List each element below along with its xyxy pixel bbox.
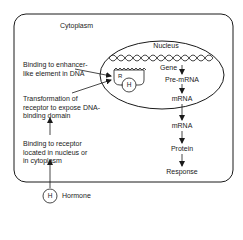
- step-text: like element in DNA: [23, 70, 88, 79]
- hormone-bound-label: H: [127, 81, 132, 90]
- step-text: receptor to expose DNA-: [23, 104, 100, 113]
- flow-premrna: Pre-mRNA: [165, 76, 199, 85]
- step-text: Transformation of: [23, 95, 100, 104]
- step-text: Binding to receptor: [23, 140, 87, 149]
- step-text: in cytoplasm: [23, 157, 87, 166]
- nucleus-label: Nucleus: [153, 42, 178, 51]
- step-text: binding domain: [23, 112, 100, 121]
- arrow-to-receptor: [72, 80, 111, 93]
- step-receptor-transformation: Transformation of receptor to expose DNA…: [23, 95, 100, 121]
- step-text: Binding to enhancer-: [23, 61, 88, 70]
- hormone-label: Hormone: [62, 192, 91, 201]
- hormone-symbol: H: [48, 192, 53, 201]
- flow-mrna-nuclear: mRNA: [172, 95, 193, 104]
- step-text: located in nucleus or: [23, 149, 87, 158]
- dna-helix-icon: [109, 55, 213, 61]
- gene-label: Gene: [160, 64, 177, 73]
- flow-response: Response: [166, 168, 198, 177]
- flow-mrna-cytoplasmic: mRNA: [172, 122, 193, 131]
- step-receptor-binding: Binding to receptor located in nucleus o…: [23, 140, 87, 166]
- flow-protein: Protein: [171, 145, 193, 154]
- cytoplasm-label: Cytoplasm: [60, 22, 93, 31]
- receptor-label: R: [118, 72, 122, 81]
- step-enhancer-binding: Binding to enhancer- like element in DNA: [23, 61, 88, 78]
